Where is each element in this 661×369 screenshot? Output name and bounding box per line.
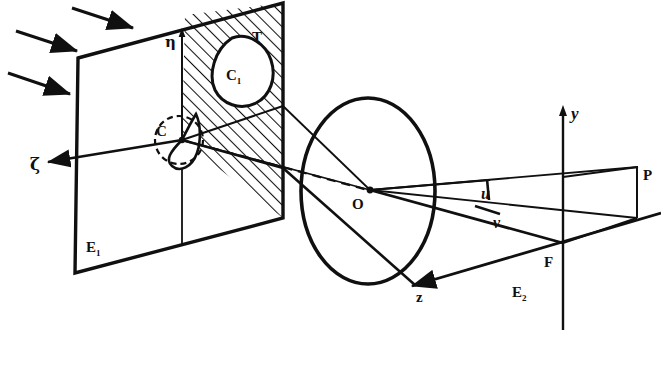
closed-curve-C1 — [212, 36, 273, 106]
label-angle-u: u — [481, 185, 490, 202]
label-plane-E1: E1 — [86, 239, 101, 258]
label-axis-eta: η — [165, 33, 176, 51]
label-plane-E2: E2 — [512, 284, 527, 303]
figure-root: ζ η T C1 C E1 O u v F P y z E2 — [0, 0, 661, 369]
optical-diagram-svg: ζ η T C1 C E1 O u v F P y z E2 — [0, 0, 661, 369]
axis-z — [412, 213, 661, 286]
diagram-labels: ζ η T C1 C E1 O u v F P y z E2 — [30, 29, 652, 305]
axis-zeta — [48, 140, 182, 162]
label-axis-z: z — [416, 289, 423, 305]
label-axis-zeta: ζ — [30, 154, 40, 174]
label-lens-center-O: O — [352, 196, 364, 212]
axis-y — [559, 105, 567, 330]
lens-ellipse — [301, 98, 435, 284]
label-angle-v: v — [493, 214, 501, 231]
label-curve-C: C — [156, 123, 167, 139]
label-focus-F: F — [544, 254, 553, 270]
label-region-T: T — [252, 29, 262, 45]
label-axis-y: y — [569, 104, 579, 123]
incident-light-rays — [8, 8, 133, 94]
label-point-P: P — [643, 167, 652, 183]
